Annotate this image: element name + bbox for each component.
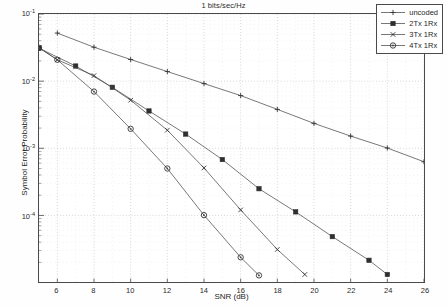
legend[interactable]: uncoded2Tx 1Rx3Tx 1Rx4Tx 1Rx — [376, 4, 443, 54]
legend-marker-x-icon — [380, 29, 406, 40]
y-axis-label: Symbol Error Probability — [20, 73, 29, 233]
y-tick-label: 10-2 — [2, 75, 35, 86]
legend-label: 2Tx 1Rx — [406, 19, 437, 28]
legend-marker-circle-icon — [380, 40, 406, 51]
y-tick-label: 10-3 — [2, 143, 35, 154]
legend-item-3tx-1rx[interactable]: 3Tx 1Rx — [380, 29, 438, 40]
x-axis-label: SNR (dB) — [38, 292, 425, 301]
figure-canvas: 1 bits/sec/Hz 10-110-210-310-4 681012141… — [0, 0, 447, 306]
y-tick-label: 10-1 — [2, 8, 35, 19]
legend-item-2tx-1rx[interactable]: 2Tx 1Rx — [380, 18, 438, 29]
legend-marker-plus-icon — [380, 7, 406, 18]
legend-item-uncoded[interactable]: uncoded — [380, 7, 438, 18]
legend-label: 3Tx 1Rx — [406, 30, 437, 39]
legend-label: uncoded — [406, 8, 438, 17]
plot-area — [38, 13, 425, 283]
y-tick-label: 10-4 — [2, 210, 35, 221]
legend-item-4tx-1rx[interactable]: 4Tx 1Rx — [380, 40, 438, 51]
legend-marker-square-filled-icon — [380, 18, 406, 29]
legend-label: 4Tx 1Rx — [406, 41, 437, 50]
data-series-layer — [39, 14, 424, 283]
